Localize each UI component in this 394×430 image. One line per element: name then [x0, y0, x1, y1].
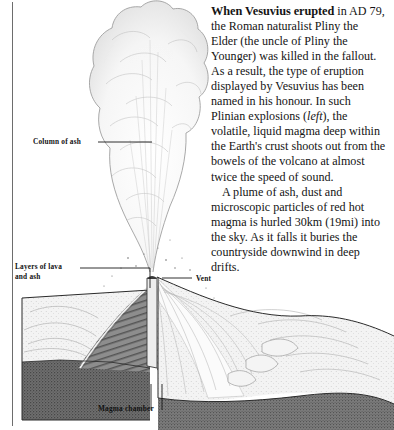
label-column-of-ash: Column of ash [33, 137, 81, 147]
article-heading: When Vesuvius erupted [211, 4, 334, 18]
ash-plume [80, 0, 220, 285]
volcano-diagram: Column of ash Layers of lava and ash Ven… [0, 0, 210, 430]
vent-conduit [147, 278, 157, 368]
paragraph-one: When Vesuvius erupted in AD 79, the Roma… [211, 4, 387, 185]
label-layers-of-lava-and-ash: Layers of lava and ash [15, 262, 75, 281]
left-cutaway-block [22, 285, 150, 420]
label-magma-chamber: Magma chamber [98, 404, 154, 414]
illustration-page: Column of ash Layers of lava and ash Ven… [0, 0, 394, 430]
paragraph-one-italic: left [307, 109, 322, 123]
article-text-column: When Vesuvius erupted in AD 79, the Roma… [211, 4, 387, 428]
paragraph-two: A plume of ash, dust and microscopic par… [211, 185, 387, 275]
paragraph-one-lead: in AD 79, the Roman naturalist Pliny the… [211, 4, 385, 123]
label-vent: Vent [196, 274, 211, 284]
